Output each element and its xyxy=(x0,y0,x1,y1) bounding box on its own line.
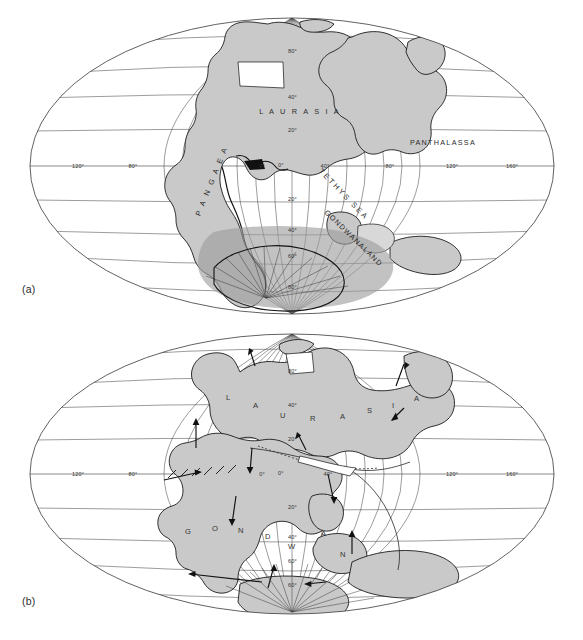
svg-text:20°: 20° xyxy=(288,436,297,442)
svg-text:120°: 120° xyxy=(72,163,84,169)
svg-text:40°: 40° xyxy=(288,94,297,100)
svg-text:40°: 40° xyxy=(288,402,297,408)
svg-text:160°: 160° xyxy=(506,471,518,477)
svg-text:0°: 0° xyxy=(278,470,284,476)
figure-root: 120° 80° 0° 40° 80° 120° 160° 80° 40° 20… xyxy=(0,0,583,640)
svg-text:40°: 40° xyxy=(288,534,297,540)
svg-text:40°: 40° xyxy=(288,227,297,233)
svg-text:D: D xyxy=(265,532,271,541)
svg-text:G: G xyxy=(185,527,191,536)
svg-text:60°: 60° xyxy=(288,558,297,564)
svg-text:O: O xyxy=(212,524,218,533)
svg-text:120°: 120° xyxy=(72,471,84,477)
svg-text:40°: 40° xyxy=(324,471,333,477)
svg-text:N: N xyxy=(340,550,345,559)
svg-text:80°: 80° xyxy=(129,471,138,477)
svg-text:0°: 0° xyxy=(259,163,265,169)
svg-text:80°: 80° xyxy=(386,163,395,169)
panel-a: 120° 80° 0° 40° 80° 120° 160° 80° 40° 20… xyxy=(0,0,583,320)
svg-text:U: U xyxy=(280,411,285,420)
panel-b: 120° 80° 0° 40° 120° 160° 80° 40° 20° 0°… xyxy=(0,320,583,640)
svg-text:60°: 60° xyxy=(288,582,297,588)
svg-text:20°: 20° xyxy=(288,127,297,133)
svg-text:60°: 60° xyxy=(288,253,297,259)
svg-text:80°: 80° xyxy=(288,284,297,290)
label-panthalassa: PANTHALASSA xyxy=(410,138,476,147)
svg-text:80°: 80° xyxy=(288,368,297,374)
panel-b-label: (b) xyxy=(22,595,35,607)
svg-text:120°: 120° xyxy=(446,471,458,477)
svg-text:0°: 0° xyxy=(278,162,284,168)
svg-text:S: S xyxy=(367,406,372,415)
polar-ice-sheet-a xyxy=(198,226,393,309)
svg-text:80°: 80° xyxy=(288,48,297,54)
map-b-content: 120° 80° 0° 40° 120° 160° 80° 40° 20° 0°… xyxy=(0,320,583,640)
label-laurasia: L A U R A S I A xyxy=(259,107,341,116)
svg-text:20°: 20° xyxy=(288,196,297,202)
svg-text:160°: 160° xyxy=(506,163,518,169)
svg-text:20°: 20° xyxy=(288,504,297,510)
svg-text:R: R xyxy=(310,414,316,423)
svg-text:W: W xyxy=(288,542,296,551)
svg-text:120°: 120° xyxy=(446,163,458,169)
panel-a-label: (a) xyxy=(22,283,35,295)
svg-text:I: I xyxy=(392,401,394,410)
map-a: 120° 80° 0° 40° 80° 120° 160° 80° 40° 20… xyxy=(0,0,583,320)
svg-text:L: L xyxy=(226,393,230,402)
svg-text:80°: 80° xyxy=(129,163,138,169)
svg-text:N: N xyxy=(238,526,243,535)
svg-text:0°: 0° xyxy=(259,471,265,477)
